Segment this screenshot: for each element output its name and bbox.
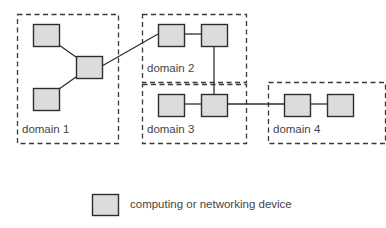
- domain-label-3: domain 3: [147, 124, 194, 136]
- domain-label-1: domain 1: [22, 124, 69, 136]
- device-node-n1: [34, 25, 60, 47]
- device-node-n5: [202, 25, 228, 47]
- domain-label-4: domain 4: [273, 124, 320, 136]
- device-node-n8: [285, 95, 311, 117]
- legend-device-symbol: [93, 195, 119, 216]
- device-node-n2: [77, 57, 103, 79]
- domain-label-2: domain 2: [147, 63, 194, 75]
- legend-label: computing or networking device: [130, 199, 292, 211]
- device-node-n3: [34, 89, 60, 111]
- network-domains-diagram: [0, 0, 386, 228]
- device-node-n9: [328, 95, 354, 117]
- device-node-n4: [159, 25, 185, 47]
- link-n3-n2: [59, 77, 76, 89]
- link-n1-n2: [59, 45, 76, 57]
- device-node-n7: [202, 95, 228, 117]
- device-node-n6: [159, 95, 185, 117]
- legend: [93, 195, 119, 216]
